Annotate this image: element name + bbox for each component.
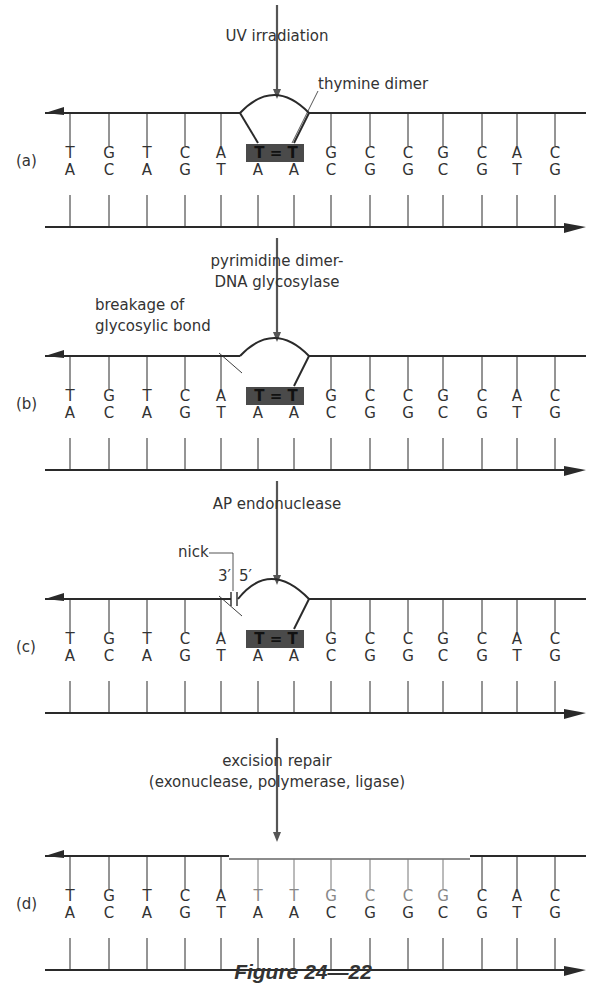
bottom-base: T [511, 404, 522, 422]
top-base: A [216, 887, 227, 905]
top-base: C [477, 630, 487, 648]
bottom-base: T [215, 904, 226, 922]
bottom-base: T [511, 904, 522, 922]
top-base: T [64, 630, 75, 648]
five-prime-label: 5′ [239, 567, 253, 585]
sugar-hump [240, 338, 309, 356]
top-base: C [365, 630, 375, 648]
dna-repair-diagram: UV irradiationT = TTAGCTACGATAAGCCGCGGCC… [0, 0, 606, 994]
bottom-base: C [326, 904, 336, 922]
dimer-leg-left [240, 113, 258, 143]
panel-label: (c) [16, 638, 36, 656]
top-base: C [365, 387, 375, 405]
dimer-leg-right [294, 599, 309, 629]
three-prime-label: 3′ [218, 567, 232, 585]
top-base: C [365, 144, 375, 162]
bottom-base: A [142, 647, 153, 665]
arrow-down-icon [273, 89, 281, 99]
top-base: G [325, 387, 337, 405]
bottom-base: C [104, 647, 114, 665]
callout-leader [292, 91, 318, 143]
bottom-base: G [179, 904, 191, 922]
bottom-base: A [289, 647, 300, 665]
bottom-base: C [104, 404, 114, 422]
process-label: DNA glycosylase [215, 273, 340, 291]
top-base: A [512, 887, 523, 905]
top-base: C [477, 387, 487, 405]
top-base: G [325, 144, 337, 162]
top-base: T [252, 887, 263, 905]
glycosylic-bond-callout: glycosylic bond [95, 317, 211, 335]
top-base: C [180, 387, 190, 405]
top-base: A [512, 144, 523, 162]
thymine-dimer-callout: thymine dimer [318, 75, 429, 93]
bottom-base: G [476, 161, 488, 179]
process-label: pyrimidine dimer- [211, 252, 344, 270]
top-base: A [512, 387, 523, 405]
top-base: C [180, 887, 190, 905]
top-base: T [141, 887, 152, 905]
arrowhead-right-icon [564, 223, 586, 233]
bottom-base: A [65, 647, 76, 665]
bottom-base: A [253, 404, 264, 422]
bottom-base: A [289, 404, 300, 422]
bottom-base: A [289, 904, 300, 922]
top-base: G [437, 144, 449, 162]
bottom-base: G [364, 161, 376, 179]
top-base: C [477, 887, 487, 905]
top-base: G [103, 144, 115, 162]
panel-label: (d) [16, 895, 37, 913]
top-base: A [512, 630, 523, 648]
dimer-leg-right [294, 356, 309, 386]
thymine-dimer-label: T = T [254, 387, 298, 405]
panel-label: (a) [16, 152, 37, 170]
arrowhead-right-icon [564, 709, 586, 719]
top-base: C [180, 630, 190, 648]
top-base: C [365, 887, 375, 905]
bottom-base: T [511, 161, 522, 179]
bottom-base: A [253, 904, 264, 922]
arrow-down-icon [273, 332, 281, 342]
bottom-base: A [65, 161, 76, 179]
bottom-base: G [476, 404, 488, 422]
bottom-base: T [215, 404, 226, 422]
top-base: G [437, 387, 449, 405]
process-label: UV irradiation [225, 27, 328, 45]
bottom-base: G [549, 904, 561, 922]
bottom-base: G [402, 647, 414, 665]
top-base: C [403, 630, 413, 648]
top-base: G [325, 887, 337, 905]
bottom-base: G [364, 647, 376, 665]
process-label: (exonuclease, polymerase, ligase) [149, 773, 405, 791]
dimer-leg-right [294, 113, 309, 143]
arrowhead-right-icon [564, 466, 586, 476]
bottom-base: C [326, 647, 336, 665]
panel-c: AP endonucleasenick3′5′T = TTAGCTACGATAA… [16, 481, 586, 719]
top-base: G [325, 630, 337, 648]
bottom-base: C [104, 904, 114, 922]
panel-d: excision repair(exonuclease, polymerase,… [16, 738, 586, 976]
top-base: C [180, 144, 190, 162]
top-base: A [216, 387, 227, 405]
top-base: T [141, 144, 152, 162]
thymine-dimer-label: T = T [254, 630, 298, 648]
top-base: T [141, 387, 152, 405]
figure-caption: Figure 24—22 [0, 960, 606, 984]
top-base: C [550, 630, 560, 648]
bottom-base: G [179, 647, 191, 665]
bottom-base: G [364, 904, 376, 922]
bottom-base: G [476, 647, 488, 665]
top-base: C [550, 144, 560, 162]
bottom-base: G [549, 161, 561, 179]
top-base: T [141, 630, 152, 648]
bottom-base: A [289, 161, 300, 179]
bottom-base: G [476, 904, 488, 922]
bottom-base: G [402, 161, 414, 179]
thymine-dimer-label: T = T [254, 144, 298, 162]
top-base: G [437, 630, 449, 648]
bottom-base: G [402, 404, 414, 422]
bottom-base: G [179, 404, 191, 422]
bottom-base: A [65, 404, 76, 422]
top-base: C [403, 887, 413, 905]
process-label: AP endonuclease [213, 495, 341, 513]
